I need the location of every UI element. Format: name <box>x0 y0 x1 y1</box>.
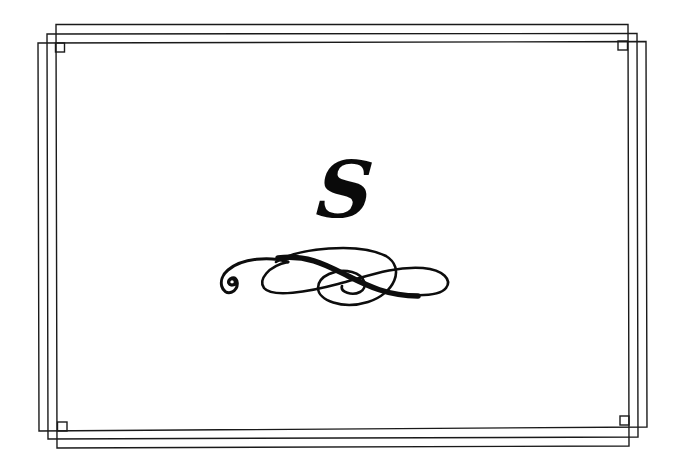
section-letter: S <box>307 150 383 230</box>
corner-square-top-right <box>618 41 628 50</box>
frame-rect-1 <box>56 25 629 449</box>
frame-rect-2 <box>47 34 638 440</box>
corner-square-bottom-right <box>620 416 629 425</box>
corner-square-bottom-left <box>58 422 68 431</box>
corner-square-top-left <box>56 43 65 52</box>
decorative-frame <box>0 0 682 473</box>
frame-rect-3 <box>38 42 647 432</box>
flourish-ornament-icon <box>218 244 454 310</box>
